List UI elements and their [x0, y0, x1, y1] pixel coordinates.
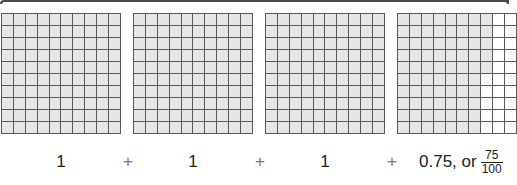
shaded-cell — [193, 74, 204, 85]
shaded-cell — [134, 14, 145, 25]
shaded-cell — [410, 110, 421, 121]
shaded-cell — [302, 86, 313, 97]
shaded-cell — [182, 86, 193, 97]
shaded-cell — [469, 62, 480, 73]
shaded-cell — [26, 74, 37, 85]
shaded-cell — [349, 50, 360, 61]
shaded-cell — [2, 62, 13, 73]
shaded-cell — [325, 86, 336, 97]
shaded-cell — [469, 86, 480, 97]
shaded-cell — [134, 26, 145, 37]
unshaded-cell — [493, 62, 504, 73]
shaded-cell — [373, 38, 384, 49]
shaded-cell — [134, 122, 145, 133]
shaded-cell — [229, 74, 240, 85]
unshaded-cell — [505, 86, 516, 97]
shaded-cell — [109, 62, 120, 73]
shaded-cell — [398, 74, 409, 85]
shaded-cell — [337, 14, 348, 25]
shaded-cell — [434, 62, 445, 73]
shaded-cell — [14, 38, 25, 49]
shaded-cell — [146, 110, 157, 121]
shaded-cell — [410, 86, 421, 97]
shaded-cell — [337, 122, 348, 133]
shaded-cell — [193, 86, 204, 97]
shaded-cell — [361, 110, 372, 121]
shaded-cell — [337, 62, 348, 73]
shaded-cell — [97, 50, 108, 61]
shaded-cell — [2, 38, 13, 49]
shaded-cell — [278, 14, 289, 25]
shaded-cell — [193, 98, 204, 109]
shaded-cell — [26, 98, 37, 109]
shaded-cell — [241, 110, 252, 121]
shaded-cell — [290, 122, 301, 133]
shaded-cell — [217, 62, 228, 73]
shaded-cell — [205, 98, 216, 109]
shaded-cell — [434, 110, 445, 121]
shaded-cell — [469, 74, 480, 85]
shaded-cell — [146, 26, 157, 37]
shaded-cell — [229, 62, 240, 73]
shaded-cell — [410, 38, 421, 49]
shaded-cell — [97, 110, 108, 121]
shaded-cell — [38, 26, 49, 37]
unshaded-cell — [505, 62, 516, 73]
shaded-cell — [134, 98, 145, 109]
shaded-cell — [97, 86, 108, 97]
shaded-cell — [85, 50, 96, 61]
shaded-cell — [481, 14, 492, 25]
shaded-cell — [373, 110, 384, 121]
unshaded-cell — [493, 26, 504, 37]
shaded-cell — [2, 26, 13, 37]
shaded-cell — [38, 122, 49, 133]
shaded-cell — [302, 38, 313, 49]
shaded-cell — [422, 86, 433, 97]
shaded-cell — [2, 122, 13, 133]
shaded-cell — [290, 26, 301, 37]
unshaded-cell — [505, 122, 516, 133]
shaded-cell — [325, 110, 336, 121]
shaded-cell — [349, 110, 360, 121]
shaded-cell — [314, 50, 325, 61]
shaded-cell — [481, 50, 492, 61]
shaded-cell — [302, 62, 313, 73]
shaded-cell — [278, 50, 289, 61]
shaded-cell — [373, 50, 384, 61]
plus-sign-1: + — [118, 147, 138, 177]
shaded-cell — [422, 110, 433, 121]
shaded-cell — [361, 98, 372, 109]
shaded-cell — [182, 14, 193, 25]
shaded-cell — [266, 14, 277, 25]
shaded-cell — [398, 26, 409, 37]
shaded-cell — [14, 98, 25, 109]
shaded-cell — [146, 38, 157, 49]
shaded-cell — [278, 98, 289, 109]
shaded-cell — [314, 98, 325, 109]
shaded-cell — [434, 38, 445, 49]
shaded-cell — [97, 14, 108, 25]
shaded-cell — [434, 14, 445, 25]
shaded-cell — [373, 74, 384, 85]
unshaded-cell — [493, 74, 504, 85]
shaded-cell — [337, 50, 348, 61]
shaded-cell — [182, 110, 193, 121]
shaded-cell — [193, 38, 204, 49]
shaded-cell — [398, 110, 409, 121]
shaded-cell — [50, 50, 61, 61]
shaded-cell — [97, 62, 108, 73]
shaded-cell — [205, 50, 216, 61]
shaded-cell — [398, 98, 409, 109]
shaded-cell — [325, 62, 336, 73]
shaded-cell — [158, 122, 169, 133]
shaded-cell — [446, 86, 457, 97]
shaded-cell — [410, 122, 421, 133]
shaded-cell — [38, 14, 49, 25]
shaded-cell — [457, 98, 468, 109]
shaded-cell — [182, 98, 193, 109]
shaded-cell — [241, 62, 252, 73]
shaded-cell — [182, 50, 193, 61]
shaded-cell — [182, 38, 193, 49]
shaded-cell — [182, 62, 193, 73]
shaded-cell — [50, 14, 61, 25]
